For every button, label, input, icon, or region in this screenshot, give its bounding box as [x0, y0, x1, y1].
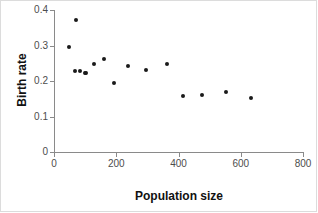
x-axis-tick — [241, 153, 242, 157]
y-axis-tick-label-text: 0 — [18, 147, 48, 157]
y-axis-title: Birth rate — [15, 20, 29, 140]
data-point — [78, 69, 82, 73]
x-axis-tick-label: 400 — [159, 158, 199, 169]
y-axis-tick-label: 0.4 — [14, 5, 48, 15]
data-point — [249, 96, 253, 100]
x-axis-tick-label: 600 — [221, 158, 261, 169]
data-point — [84, 71, 88, 75]
plot-area — [54, 10, 303, 152]
data-point — [126, 64, 130, 68]
y-axis-tick-label: 0 — [14, 147, 48, 157]
scatter-chart: 00.10.20.30.4 0200400600800 Population s… — [0, 0, 318, 213]
x-axis-title: Population size — [54, 189, 304, 203]
y-axis-tick-label-text: 0.4 — [18, 5, 48, 15]
data-point — [92, 62, 96, 66]
x-axis-tick-label: 200 — [96, 158, 136, 169]
data-point — [102, 57, 106, 61]
x-axis-tick — [116, 153, 117, 157]
data-point — [112, 81, 116, 85]
x-axis-tick-label: 800 — [283, 158, 318, 169]
data-point — [73, 69, 77, 73]
data-point — [224, 90, 228, 94]
x-axis-tick — [179, 153, 180, 157]
data-point — [67, 45, 71, 49]
data-point — [181, 94, 185, 98]
x-axis-tick-label: 0 — [34, 158, 74, 169]
data-point — [200, 93, 204, 97]
data-point — [144, 68, 148, 72]
data-point — [165, 62, 169, 66]
x-axis-tick — [54, 153, 55, 157]
data-point — [74, 18, 78, 22]
x-axis-tick — [303, 153, 304, 157]
